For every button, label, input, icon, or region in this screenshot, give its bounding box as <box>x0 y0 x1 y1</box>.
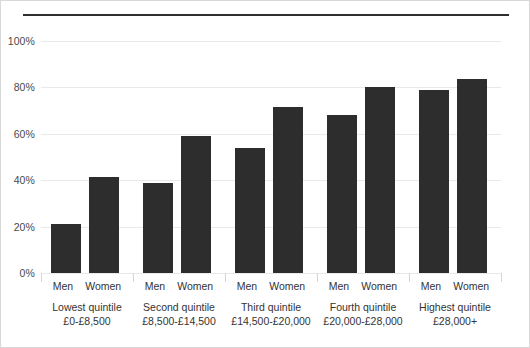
bar-women-3 <box>273 107 303 273</box>
bar-group <box>41 41 133 273</box>
bar-series-container <box>41 41 501 273</box>
category-name: Lowest quintile <box>41 300 133 314</box>
bar-group <box>133 41 225 273</box>
series-label-men: Men <box>145 279 165 293</box>
series-label-men: Men <box>421 279 441 293</box>
category-name: Fourth quintile <box>317 300 409 314</box>
series-label-women: Women <box>85 279 121 293</box>
series-name-row: MenWomen <box>317 279 409 293</box>
series-label-men: Men <box>53 279 73 293</box>
series-label-women: Women <box>453 279 489 293</box>
category-name: Highest quintile <box>409 300 501 314</box>
category-range: £14,500-£20,000 <box>225 314 317 328</box>
series-label-women: Women <box>361 279 397 293</box>
series-name-row: MenWomen <box>225 279 317 293</box>
category-range: £0-£8,500 <box>41 314 133 328</box>
bar-men-1 <box>51 224 81 273</box>
x-axis-labels: MenWomenLowest quintile£0-£8,500MenWomen… <box>41 279 501 345</box>
x-axis-group-label: MenWomenLowest quintile£0-£8,500 <box>41 279 133 328</box>
y-axis-tick-label: 20% <box>14 221 35 233</box>
series-name-row: MenWomen <box>41 279 133 293</box>
top-divider-rule <box>23 14 509 16</box>
bar-women-5 <box>457 79 487 273</box>
bar-women-1 <box>89 177 119 273</box>
series-name-row: MenWomen <box>133 279 225 293</box>
gridline: 0% <box>41 273 501 274</box>
x-axis-group-label: MenWomenHighest quintile£28,000+ <box>409 279 501 328</box>
bar-group <box>317 41 409 273</box>
bar-group <box>409 41 501 273</box>
y-axis-tick-label: 80% <box>14 81 35 93</box>
series-label-men: Men <box>329 279 349 293</box>
bar-women-2 <box>181 136 211 273</box>
category-name: Third quintile <box>225 300 317 314</box>
x-axis-group-label: MenWomenSecond quintile£8,500-£14,500 <box>133 279 225 328</box>
bar-men-5 <box>419 90 449 273</box>
series-name-row: MenWomen <box>409 279 501 293</box>
bar-men-3 <box>235 148 265 273</box>
y-axis-tick-label: 0% <box>20 267 35 279</box>
bar-men-2 <box>143 183 173 273</box>
series-label-women: Women <box>177 279 213 293</box>
category-range: £20,000-£28,000 <box>317 314 409 328</box>
series-label-women: Women <box>269 279 305 293</box>
y-axis-tick-label: 100% <box>8 35 35 47</box>
bar-women-4 <box>365 87 395 273</box>
axis-tick <box>501 273 502 282</box>
category-range: £28,000+ <box>409 314 501 328</box>
x-axis-group-label: MenWomenThird quintile£14,500-£20,000 <box>225 279 317 328</box>
category-range: £8,500-£14,500 <box>133 314 225 328</box>
plot-area: 0%20%40%60%80%100% <box>41 41 501 273</box>
category-name: Second quintile <box>133 300 225 314</box>
y-axis-tick-label: 40% <box>14 174 35 186</box>
bar-group <box>225 41 317 273</box>
series-label-men: Men <box>237 279 257 293</box>
bar-men-4 <box>327 115 357 273</box>
bar-chart-figure: 0%20%40%60%80%100% MenWomenLowest quinti… <box>0 0 530 348</box>
x-axis-group-label: MenWomenFourth quintile£20,000-£28,000 <box>317 279 409 328</box>
y-axis-tick-label: 60% <box>14 128 35 140</box>
